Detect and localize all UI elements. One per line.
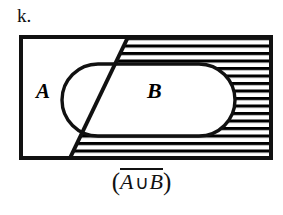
- caption-complement-bar: A∪B: [120, 168, 163, 193]
- caption-close-paren: ): [163, 168, 171, 195]
- caption-union-operator: ∪: [134, 172, 150, 193]
- set-b-label: B: [147, 78, 162, 104]
- caption-set-a: A: [120, 169, 133, 194]
- figure-caption: (A∪B): [0, 168, 283, 194]
- set-a-label: A: [36, 79, 50, 104]
- caption-open-paren: (: [112, 168, 120, 195]
- caption-set-b: B: [150, 169, 163, 194]
- venn-diagram-figure: k. A B (A∪B): [0, 0, 283, 215]
